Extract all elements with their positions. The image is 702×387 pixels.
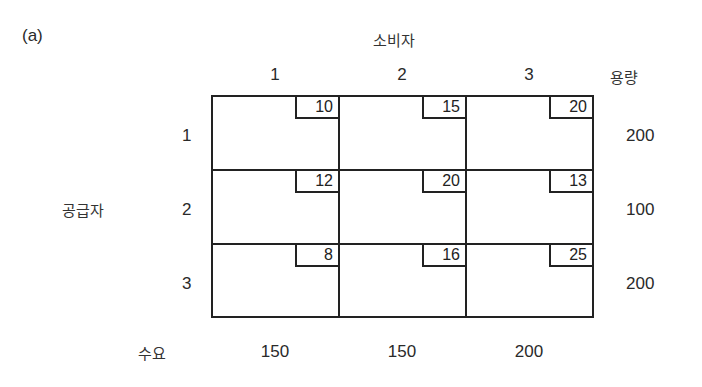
cost-2-2: 20 bbox=[422, 171, 465, 193]
cell-1-2: 15 bbox=[340, 97, 467, 171]
consumer-title: 소비자 bbox=[373, 29, 415, 50]
cell-3-1: 8 bbox=[213, 245, 340, 316]
panel-label: (a) bbox=[22, 26, 43, 46]
cell-2-3: 13 bbox=[467, 171, 592, 245]
cell-3-2: 16 bbox=[340, 245, 467, 316]
transportation-table: 10 15 20 12 20 13 8 16 25 bbox=[211, 95, 594, 318]
consumer-header-3: 3 bbox=[499, 65, 559, 85]
consumer-header-2: 2 bbox=[372, 65, 432, 85]
cell-1-3: 20 bbox=[467, 97, 592, 171]
cost-3-2: 16 bbox=[422, 245, 465, 267]
capacity-3: 200 bbox=[626, 274, 654, 294]
cost-1-3: 20 bbox=[549, 97, 592, 119]
cost-3-1: 8 bbox=[295, 245, 338, 267]
cost-2-1: 12 bbox=[295, 171, 338, 193]
cost-1-1: 10 bbox=[295, 97, 338, 119]
supplier-header-3: 3 bbox=[182, 274, 191, 294]
cost-2-3: 13 bbox=[549, 171, 592, 193]
supplier-header-1: 1 bbox=[182, 126, 191, 146]
cell-3-3: 25 bbox=[467, 245, 592, 316]
cost-3-3: 25 bbox=[549, 245, 592, 267]
capacity-1: 200 bbox=[626, 126, 654, 146]
cost-1-2: 15 bbox=[422, 97, 465, 119]
demand-title: 수요 bbox=[138, 342, 166, 363]
supplier-header-2: 2 bbox=[182, 200, 191, 220]
demand-2: 150 bbox=[372, 342, 432, 362]
demand-3: 200 bbox=[499, 342, 559, 362]
cell-1-1: 10 bbox=[213, 97, 340, 171]
capacity-2: 100 bbox=[626, 200, 654, 220]
supplier-title: 공급자 bbox=[62, 199, 104, 220]
capacity-title: 용량 bbox=[610, 66, 638, 87]
cell-2-2: 20 bbox=[340, 171, 467, 245]
consumer-header-1: 1 bbox=[245, 65, 305, 85]
cell-2-1: 12 bbox=[213, 171, 340, 245]
demand-1: 150 bbox=[245, 342, 305, 362]
